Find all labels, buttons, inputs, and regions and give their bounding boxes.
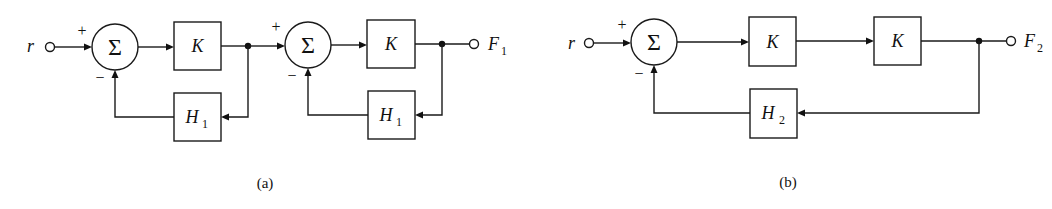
wire xyxy=(308,74,368,115)
minus-sign: − xyxy=(634,65,643,82)
output-subscript: 2 xyxy=(1037,41,1043,55)
block-label: H xyxy=(379,105,394,125)
block-label: K xyxy=(890,31,904,51)
block-label: H xyxy=(761,103,776,123)
arrow-icon xyxy=(221,114,229,121)
plus-sign: + xyxy=(271,18,280,35)
block-subscript: 1 xyxy=(202,117,208,131)
plus-sign: + xyxy=(77,22,86,39)
output-terminal xyxy=(470,40,479,49)
input-label-r: r xyxy=(27,36,35,56)
output-terminal xyxy=(1007,37,1016,46)
wire xyxy=(115,76,174,117)
input-terminal xyxy=(585,39,594,48)
arrow-icon xyxy=(415,112,423,119)
output-label: F xyxy=(1023,31,1036,51)
block-label: K xyxy=(384,34,398,54)
arrow-icon xyxy=(112,70,119,78)
minus-sign: − xyxy=(287,67,296,84)
arrow-icon xyxy=(651,65,658,73)
wire xyxy=(654,71,750,113)
minus-sign: − xyxy=(95,69,104,86)
sigma-symbol: Σ xyxy=(108,34,122,60)
block-label: H xyxy=(185,107,200,127)
arrow-icon xyxy=(866,38,874,45)
arrow-icon xyxy=(305,68,312,76)
arrow-icon xyxy=(359,42,367,49)
input-label-r: r xyxy=(568,33,576,53)
wire xyxy=(227,46,248,117)
output-label: F xyxy=(487,34,500,54)
block-subscript: 1 xyxy=(396,115,402,129)
sigma-symbol: Σ xyxy=(301,32,315,58)
arrow-icon xyxy=(797,110,805,117)
caption-a: (a) xyxy=(257,175,274,192)
input-terminal xyxy=(46,43,55,52)
block-subscript: 2 xyxy=(779,113,785,127)
arrow-icon xyxy=(277,43,285,50)
arrow-icon xyxy=(623,40,631,47)
wire xyxy=(421,44,442,115)
arrow-icon xyxy=(166,44,174,51)
arrow-icon xyxy=(84,44,92,51)
diagram-a: r Σ + − K H 1 Σ + − xyxy=(27,18,507,192)
block-label: K xyxy=(190,36,204,56)
diagram-b: r Σ + − K K F 2 H 2 (b) xyxy=(568,16,1043,191)
caption-b: (b) xyxy=(779,174,797,191)
arrow-icon xyxy=(741,39,749,46)
plus-sign: + xyxy=(617,16,626,33)
output-subscript: 1 xyxy=(501,44,507,58)
sigma-symbol: Σ xyxy=(647,29,661,55)
block-label: K xyxy=(765,32,779,52)
block-diagrams: r Σ + − K H 1 Σ + − xyxy=(0,0,1052,209)
